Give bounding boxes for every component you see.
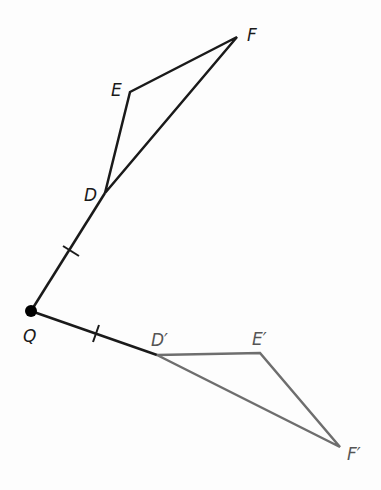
diagram-svg: F E D Q D′ E′ F′ — [0, 0, 381, 490]
rotation-diagram: F E D Q D′ E′ F′ — [0, 0, 381, 490]
segment-QD — [31, 193, 105, 311]
label-Fprime: F′ — [347, 444, 361, 464]
label-D: D — [84, 185, 97, 205]
label-F: F — [247, 25, 257, 45]
segment-QDprime — [31, 311, 157, 355]
triangle-DEF — [105, 37, 237, 193]
label-Eprime: E′ — [252, 329, 267, 349]
center-point-Q — [25, 305, 37, 317]
label-E: E — [111, 80, 122, 100]
label-Dprime: D′ — [151, 330, 168, 350]
triangle-DprimeEprimeFprime — [157, 353, 340, 447]
label-Q: Q — [23, 326, 36, 346]
